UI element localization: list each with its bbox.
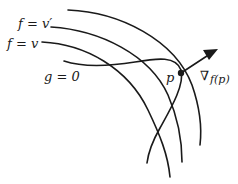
gradient-arrowhead-icon — [203, 49, 218, 60]
label-f-equals-v: f = v — [6, 36, 39, 51]
lagrange-diagram: f = v′ f = v g = 0 p ∇ f(p) — [0, 0, 238, 184]
point-p-dot — [178, 70, 184, 76]
label-g-equals-0: g = 0 — [44, 69, 80, 84]
label-f-equals-v-prime: f = v′ — [17, 16, 52, 31]
gradient-nabla-symbol: ∇ — [200, 68, 209, 83]
gradient-argument-label: f(p) — [209, 73, 230, 86]
level-curve-v — [42, 42, 170, 177]
label-point-p: p — [166, 70, 175, 85]
